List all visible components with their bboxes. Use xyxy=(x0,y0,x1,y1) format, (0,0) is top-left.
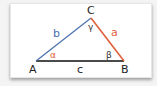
angle-label-alpha: α xyxy=(50,50,56,60)
side-label-a: a xyxy=(111,26,118,39)
triangle-diagram: A B C a b c α β γ xyxy=(0,0,157,86)
vertex-label-a: A xyxy=(29,63,37,76)
vertex-label-c: C xyxy=(87,4,95,17)
side-b xyxy=(36,18,91,61)
vertex-label-b: B xyxy=(121,63,129,76)
angle-label-gamma: γ xyxy=(88,22,94,32)
side-label-b: b xyxy=(53,27,60,40)
side-label-c: c xyxy=(77,63,83,76)
angle-label-beta: β xyxy=(106,50,112,60)
